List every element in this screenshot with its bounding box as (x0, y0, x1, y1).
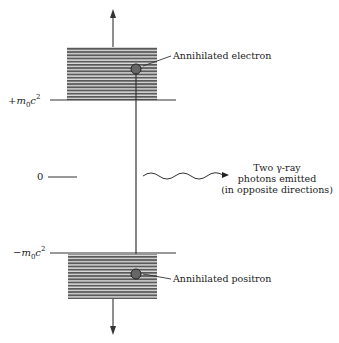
upward-arrow (110, 9, 116, 47)
downward-arrow (110, 299, 116, 335)
photon-label-line2: photons emitted (238, 173, 316, 184)
positron-particle (131, 269, 141, 279)
photon-label-line1: Two γ-ray (253, 162, 301, 173)
photon-wave (143, 173, 223, 179)
electron-particle (131, 64, 141, 74)
negative-level-label: −m0c2 (13, 245, 45, 261)
negative-energy-band (68, 254, 157, 299)
positive-level-label: +m0c2 (8, 93, 40, 109)
electron-label: Annihilated electron (172, 50, 271, 61)
photon-arrowhead (222, 172, 229, 178)
positron-label: Annihilated positron (172, 273, 271, 284)
photon-label-line3: (in opposite directions) (221, 184, 333, 195)
positive-energy-band (67, 47, 157, 100)
annihilation-diagram: +m0c2 0 Annihilated electron Two γ-ray p… (0, 0, 339, 343)
zero-level-label: 0 (37, 171, 43, 182)
